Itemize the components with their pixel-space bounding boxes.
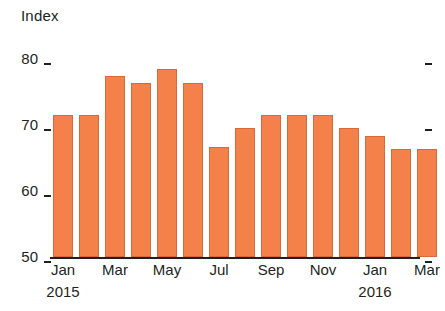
x-axis-year-label: 2016 [345, 284, 405, 300]
y-axis-tick-mark-right [425, 129, 432, 131]
y-axis-tick-value: 50 [12, 249, 38, 264]
bar [131, 83, 151, 257]
y-axis-tick-value: 70 [12, 117, 38, 132]
bar [209, 147, 229, 257]
y-axis-tick-label: 80 [12, 51, 38, 66]
y-axis-tick-mark-left [44, 129, 51, 131]
x-axis-tick-label: May [142, 262, 192, 278]
y-axis-tick-mark-left [44, 195, 51, 197]
bar [313, 115, 333, 257]
bar [105, 76, 125, 258]
bar [391, 149, 411, 257]
x-axis-tick-label: Sep [246, 262, 296, 278]
bar [157, 69, 177, 257]
bar [183, 83, 203, 257]
x-axis-tick-label: Mar [402, 262, 445, 278]
x-axis-baseline [50, 257, 420, 259]
x-axis-tick-label: Jan [350, 262, 400, 278]
y-axis-tick-label: 50 [12, 249, 38, 264]
y-axis-tick-value: 60 [12, 183, 38, 198]
x-axis-tick-label: Mar [90, 262, 140, 278]
y-axis-tick-value: 80 [12, 51, 38, 66]
bar [287, 115, 307, 257]
y-axis-tick-mark-left [44, 63, 51, 65]
x-axis-tick-label: Jul [194, 262, 244, 278]
bar [53, 115, 73, 257]
bar [365, 136, 385, 257]
bar [261, 115, 281, 257]
bar [339, 128, 359, 257]
x-axis-tick-label: Nov [298, 262, 348, 278]
x-axis-tick-label: Jan [38, 262, 88, 278]
x-axis-year-label: 2015 [33, 284, 93, 300]
bar [79, 115, 99, 257]
y-axis-tick-label: 60 [12, 183, 38, 198]
bar [417, 149, 437, 257]
y-axis-tick-label: 70 [12, 117, 38, 132]
y-axis-tick-mark-right [425, 63, 432, 65]
bar [235, 128, 255, 257]
